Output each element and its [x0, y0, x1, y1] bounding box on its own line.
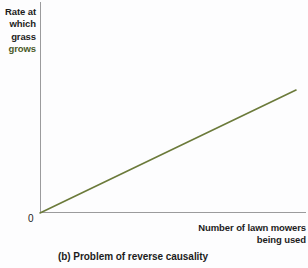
x-axis-line — [40, 212, 306, 213]
trend-line — [40, 90, 296, 213]
y-axis-label-line-1: Rate at — [0, 6, 36, 18]
y-axis-label-line-4: grows — [0, 43, 36, 55]
y-axis-label-line-3: grass — [0, 31, 36, 43]
y-axis-label-line-2: which — [0, 18, 36, 30]
origin-label: 0 — [28, 213, 34, 225]
figure-reverse-causality: Rate at which grass grows 0 Number of la… — [0, 0, 308, 268]
y-axis-line — [40, 2, 41, 213]
x-axis-label-line-2: being used — [126, 234, 306, 246]
x-axis-label-line-1: Number of lawn mowers — [126, 222, 306, 234]
y-axis-label: Rate at which grass grows — [0, 6, 36, 55]
x-axis-label: Number of lawn mowers being used — [126, 222, 306, 247]
figure-caption: (b) Problem of reverse causality — [58, 250, 208, 263]
